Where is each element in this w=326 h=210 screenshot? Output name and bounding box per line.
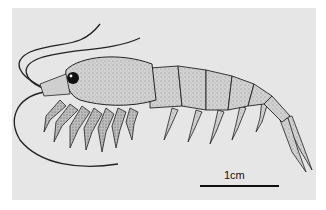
- eye: [67, 72, 79, 84]
- illustration-figure: 1cm: [0, 0, 326, 210]
- scale-bar-label: 1cm: [224, 169, 245, 181]
- head: [40, 74, 70, 96]
- thoracic-legs: [44, 100, 138, 152]
- carapace: [66, 57, 156, 105]
- tail-fan: [280, 116, 312, 172]
- krill-illustration: [0, 0, 326, 210]
- scale-bar: [200, 185, 279, 187]
